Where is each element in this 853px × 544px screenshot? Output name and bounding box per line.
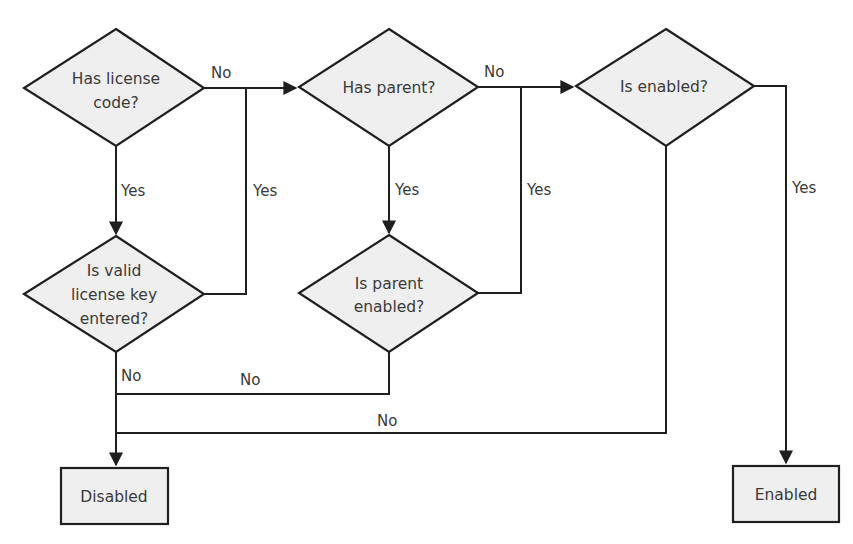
edge-label-no: No: [377, 412, 397, 430]
node-label: Has parent?: [342, 79, 435, 97]
node-label: license key: [71, 286, 157, 304]
edge-label-yes: Yes: [252, 182, 277, 200]
node-label: Enabled: [755, 486, 818, 504]
edge-label-yes: Yes: [120, 182, 145, 200]
license-flowchart: Has license code? Has parent? Is enabled…: [0, 0, 853, 544]
edge-label-yes: Yes: [394, 181, 419, 199]
node-label: code?: [93, 94, 139, 112]
result-disabled: Disabled: [61, 468, 168, 524]
node-label: enabled?: [354, 298, 425, 316]
edge-label-no: No: [211, 64, 231, 82]
node-label: Is parent: [355, 275, 423, 293]
edge-d5-yes: [478, 87, 521, 293]
decision-is-enabled: Is enabled?: [576, 29, 754, 146]
edge-d4-yes: [204, 88, 246, 294]
edge-label-no: No: [484, 63, 504, 81]
node-label: entered?: [80, 310, 149, 328]
result-enabled: Enabled: [733, 466, 839, 522]
decision-has-parent: Has parent?: [299, 29, 478, 146]
decision-has-license-code: Has license code?: [24, 29, 204, 146]
node-label: Has license: [72, 70, 160, 88]
edge-label-no: No: [240, 371, 260, 389]
edge-label-yes: Yes: [526, 181, 551, 199]
edge-d3-yes: [754, 86, 786, 463]
edge-label-yes: Yes: [791, 179, 816, 197]
node-label: Is valid: [87, 262, 142, 280]
edge-label-no: No: [121, 367, 141, 385]
node-label: Disabled: [80, 488, 147, 506]
node-label: Is enabled?: [620, 78, 708, 96]
decision-is-valid-license-key: Is valid license key entered?: [24, 236, 204, 352]
decision-is-parent-enabled: Is parent enabled?: [299, 235, 478, 352]
